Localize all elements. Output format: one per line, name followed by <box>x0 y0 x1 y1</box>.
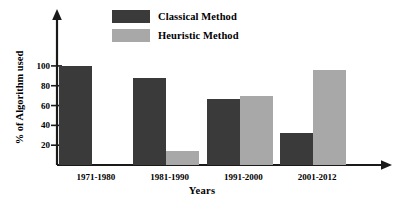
legend-swatch-classical <box>112 10 150 23</box>
bar-group <box>280 56 354 165</box>
bar-classical <box>133 78 166 165</box>
bar-group <box>207 56 281 165</box>
bar-classical <box>207 99 240 165</box>
x-tick-label: 1981-1990 <box>133 170 207 184</box>
x-axis-tick-labels: 1971-19801981-19901991-20002001-2012 <box>59 170 354 184</box>
bar-heuristic <box>166 151 199 165</box>
x-tick-label: 1991-2000 <box>207 170 281 184</box>
x-tick-label: 1971-1980 <box>59 170 133 184</box>
bar-heuristic <box>240 96 273 165</box>
chart-legend: Classical Method Heuristic Method <box>112 10 239 42</box>
bar-group <box>59 56 133 165</box>
bar-chart: Classical Method Heuristic Method 204060… <box>0 0 404 203</box>
bar-classical <box>280 133 313 165</box>
bar-heuristic <box>313 70 346 165</box>
legend-entry-classical: Classical Method <box>112 10 239 23</box>
y-axis-tick-labels: 20406080100 <box>28 56 50 165</box>
y-tick-label: 100 <box>37 61 51 70</box>
legend-label-classical: Classical Method <box>158 10 237 23</box>
x-axis-title: Years <box>0 185 404 196</box>
x-tick-label: 2001-2012 <box>280 170 354 184</box>
legend-swatch-heuristic <box>112 29 150 42</box>
legend-entry-heuristic: Heuristic Method <box>112 29 239 42</box>
bar-group <box>133 56 207 165</box>
bar-classical <box>59 66 92 165</box>
y-tick-label: 60 <box>41 101 50 110</box>
y-tick-label: 20 <box>41 141 50 150</box>
y-tick-label: 80 <box>41 81 50 90</box>
y-axis-title: % of Algorithm used <box>14 33 25 163</box>
bar-groups <box>59 56 354 165</box>
legend-label-heuristic: Heuristic Method <box>158 29 239 42</box>
y-tick-label: 40 <box>41 121 50 130</box>
